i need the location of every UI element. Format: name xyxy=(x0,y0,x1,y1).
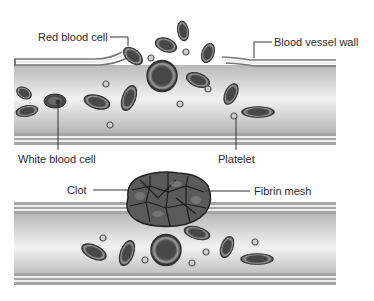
vessel-wall-top-right xyxy=(222,57,336,66)
vessel-wall-top-left xyxy=(14,52,127,65)
label-clot: Clot xyxy=(67,184,87,196)
label-platelet: Platelet xyxy=(218,153,255,165)
label-fibrin-mesh: Fibrin mesh xyxy=(254,185,311,197)
label-white-blood-cell: White blood cell xyxy=(18,153,96,165)
clot xyxy=(127,172,211,226)
label-red-blood-cell: Red blood cell xyxy=(38,31,108,43)
vessel-wall-bottom xyxy=(14,133,336,145)
label-blood-vessel-wall: Blood vessel wall xyxy=(274,36,358,48)
vessel-wall-bottom-bottom-panel xyxy=(14,273,336,285)
white-blood-cell xyxy=(44,94,66,108)
